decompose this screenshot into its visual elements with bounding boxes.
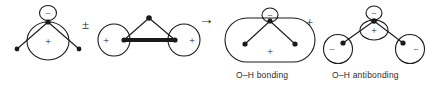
molecular-orbital-diagram: − + + + − + bbox=[0, 0, 429, 95]
frame-line-right bbox=[149, 18, 175, 40]
sign-minus-top: − bbox=[267, 11, 272, 21]
atom-dot-left bbox=[242, 41, 247, 46]
frame-line-left bbox=[124, 18, 149, 40]
structure-oh-antibonding-orbital: − + − − bbox=[324, 6, 425, 64]
structure-hydrogen-1s-in-phase-pair: + + bbox=[98, 15, 200, 56]
atom-dot-right bbox=[400, 40, 405, 45]
sign-minus-left: − bbox=[329, 44, 335, 55]
oh-antibonding-label: O–H antibonding bbox=[332, 71, 399, 80]
atom-dot-right bbox=[172, 37, 177, 42]
sign-plus-center: + bbox=[371, 25, 377, 36]
bond-left bbox=[245, 21, 270, 44]
structure-oxygen-p-orbital-lobes: − + bbox=[15, 6, 82, 61]
sign-plus-envelope: + bbox=[267, 45, 273, 57]
sign-minus-top: − bbox=[45, 9, 50, 19]
atom-dot-center bbox=[371, 18, 377, 24]
atom-dot-left bbox=[340, 40, 345, 45]
bond-right bbox=[270, 21, 295, 44]
sign-minus-right: − bbox=[413, 44, 419, 55]
oh-bonding-label: O–H bonding bbox=[236, 71, 288, 80]
atom-dot-right bbox=[77, 47, 82, 52]
structure-oh-bonding-orbital: − + bbox=[225, 8, 315, 62]
right-arrow-icon: → bbox=[199, 12, 214, 27]
plus-operator: + bbox=[306, 16, 313, 29]
sign-plus-left: + bbox=[103, 34, 109, 46]
atom-dot-left bbox=[15, 47, 20, 52]
plus-minus-operator: ± bbox=[82, 18, 89, 31]
sign-plus-right: + bbox=[189, 34, 195, 46]
atom-dot-right bbox=[292, 41, 297, 46]
hydrogen-lobe-left bbox=[324, 35, 353, 64]
atom-dot-center bbox=[45, 19, 50, 24]
bond-left bbox=[17, 22, 48, 49]
sign-minus-top: − bbox=[371, 9, 376, 19]
hydrogen-lobe-right bbox=[396, 35, 425, 64]
bond-right bbox=[48, 22, 79, 49]
atom-dot-left bbox=[121, 37, 126, 42]
atom-dot-apex bbox=[146, 15, 152, 21]
sign-plus-lobe: + bbox=[45, 35, 51, 47]
